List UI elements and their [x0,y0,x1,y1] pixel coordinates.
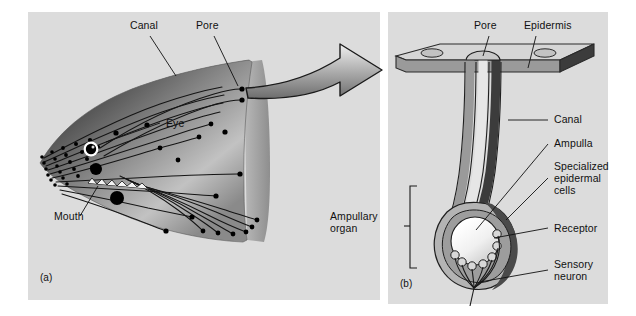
figure-ampullae-of-lorenzini: Canal Pore Eye Mouth (a) Pore Epidermis … [0,0,636,316]
label-specialized-epidermal-cells-b: Specialized epidermal cells [554,160,609,196]
leader-specialized-cells-b [506,178,548,220]
figure-artwork [0,0,636,316]
label-canal-a: Canal [130,19,158,31]
panel-a-number: (a) [40,272,52,283]
label-ampulla-b: Ampulla [554,137,593,149]
label-pore-a: Pore [196,19,219,31]
magnification-arrow [246,44,382,98]
epidermis-surface-pore-right [534,49,556,57]
label-receptor-b: Receptor [554,222,597,234]
label-pore-b: Pore [474,19,497,31]
panel-b-number: (b) [400,278,412,289]
label-canal-b: Canal [554,113,582,125]
label-sensory-neuron-b: Sensory neuron [554,258,593,282]
leader-canal-a [150,36,176,76]
shark-nostril [90,163,102,175]
epidermis-surface-pore-left [421,49,443,57]
ampullary-organ-bracket [410,186,417,268]
label-ampullary-organ-b: Ampullary organ [330,210,378,234]
shark-eye [84,142,99,157]
label-eye-a: Eye [166,117,184,129]
label-epidermis-b: Epidermis [524,19,572,31]
label-mouth-a: Mouth [54,210,84,222]
shark-gill-spot [110,191,124,205]
